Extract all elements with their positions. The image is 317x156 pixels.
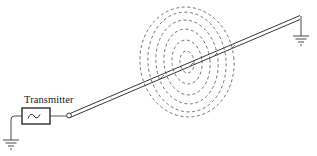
ground-lead-left-bend <box>11 116 14 126</box>
magnetic-field-lines <box>135 2 240 121</box>
left-ground-path <box>3 116 22 149</box>
feed-point-node <box>67 113 72 118</box>
transmitter-box-outline <box>22 108 50 124</box>
right-termination <box>293 16 309 45</box>
figure-canvas: Transmitter <box>0 0 317 156</box>
transmitter-label: Transmitter <box>24 94 74 105</box>
field-line-ring-3 <box>161 27 214 97</box>
field-line-ring-4 <box>152 17 222 107</box>
conductor-lower <box>70 20 300 118</box>
diagram-svg <box>0 0 317 156</box>
transmission-line <box>70 16 300 118</box>
transmitter-box[interactable] <box>22 108 50 124</box>
conductor-upper <box>70 16 300 114</box>
